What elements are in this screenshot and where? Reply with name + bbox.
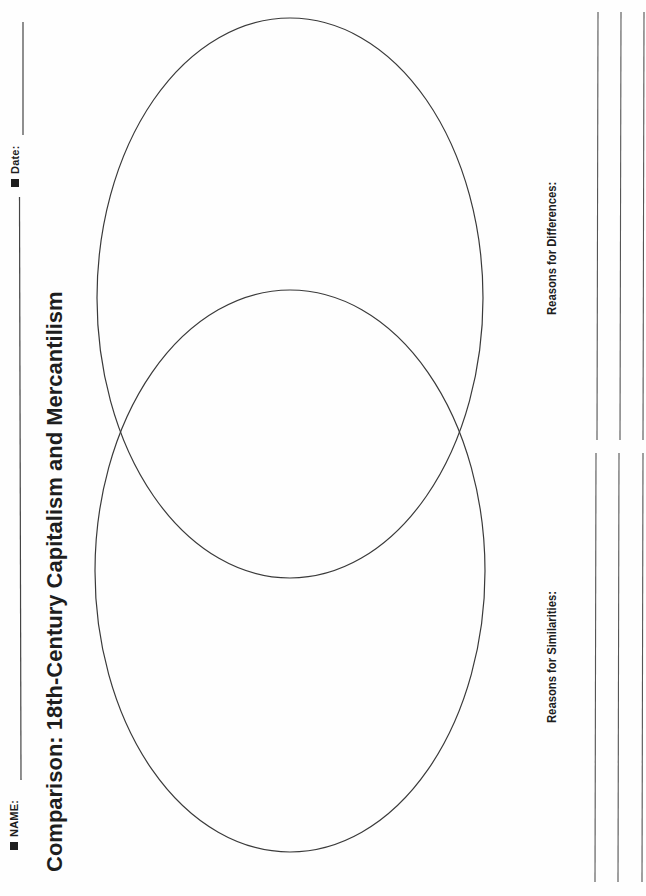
differences-label: Reasons for Differences: [545,182,559,315]
similarities-line-3[interactable] [642,453,643,882]
venn-circle-bottom[interactable] [95,290,485,852]
similarities-line-1[interactable] [595,453,596,882]
differences-line-3[interactable] [643,12,644,440]
date-label: Date: [9,145,21,187]
similarities-label: Reasons for Similarities: [545,591,559,723]
name-label: NAME: [8,800,20,850]
venn-circle-top[interactable] [97,18,483,578]
square-bullet-icon [10,842,18,850]
differences-line-1[interactable] [597,12,598,440]
worksheet-graphics [0,0,646,896]
name-field-line[interactable] [20,197,22,780]
page-title: Comparison: 18th-Century Capitalism and … [42,291,68,872]
square-bullet-icon [11,179,19,187]
differences-line-2[interactable] [620,12,621,440]
name-label-text: NAME: [8,800,20,837]
similarities-line-2[interactable] [618,453,619,882]
worksheet-page: NAME: Date: Comparison: 18th-Century Cap… [0,0,646,896]
date-label-text: Date: [9,145,21,174]
